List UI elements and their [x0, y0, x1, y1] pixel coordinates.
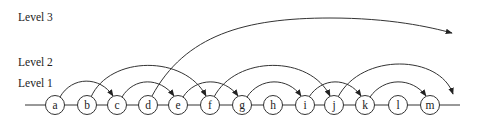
node-j: j: [325, 96, 344, 115]
level-1-pointer-a-to-c: [60, 81, 113, 97]
level-1-pointer-e-to-g: [183, 82, 238, 97]
node-label: h: [270, 99, 276, 111]
node-g: g: [233, 96, 252, 115]
node-label: c: [114, 99, 119, 111]
node-e: e: [169, 96, 188, 115]
node-label: g: [239, 99, 245, 112]
level-1-pointer-g-to-i: [247, 82, 301, 97]
node-h: h: [264, 96, 283, 115]
node-label: k: [362, 99, 368, 111]
node-label: m: [426, 99, 435, 111]
level-3-label: Level 3: [18, 11, 53, 23]
level-2-pointer-b-to-f: [91, 65, 206, 97]
node-d: d: [139, 96, 158, 115]
node-label: d: [145, 99, 151, 111]
level-labels: Level 3Level 2Level 1: [18, 11, 53, 89]
node-f: f: [201, 96, 220, 115]
level-1-pointer-k-to-m: [370, 82, 426, 97]
node-b: b: [78, 96, 97, 115]
level-2-label: Level 2: [18, 56, 53, 68]
node-a: a: [46, 96, 65, 115]
node-label: a: [52, 99, 57, 111]
skip-list-diagram: Level 3Level 2Level 1 abcdefghijklm: [0, 0, 481, 125]
node-label: j: [331, 99, 335, 112]
node-l: l: [389, 96, 408, 115]
node-label: e: [175, 99, 180, 111]
node-label: i: [303, 99, 306, 111]
node-k: k: [356, 96, 375, 115]
level-2-pointer-j-to-end: [338, 64, 453, 97]
node-i: i: [296, 96, 315, 115]
node-c: c: [108, 96, 127, 115]
node-label: b: [84, 99, 90, 111]
node-m: m: [421, 96, 440, 115]
level-1-pointer-c-to-e: [122, 82, 174, 97]
level-1-label: Level 1: [18, 77, 53, 89]
node-label: f: [208, 99, 212, 111]
edges: [60, 18, 453, 97]
level-1-pointer-i-to-k: [309, 82, 361, 97]
node-label: l: [396, 99, 399, 111]
